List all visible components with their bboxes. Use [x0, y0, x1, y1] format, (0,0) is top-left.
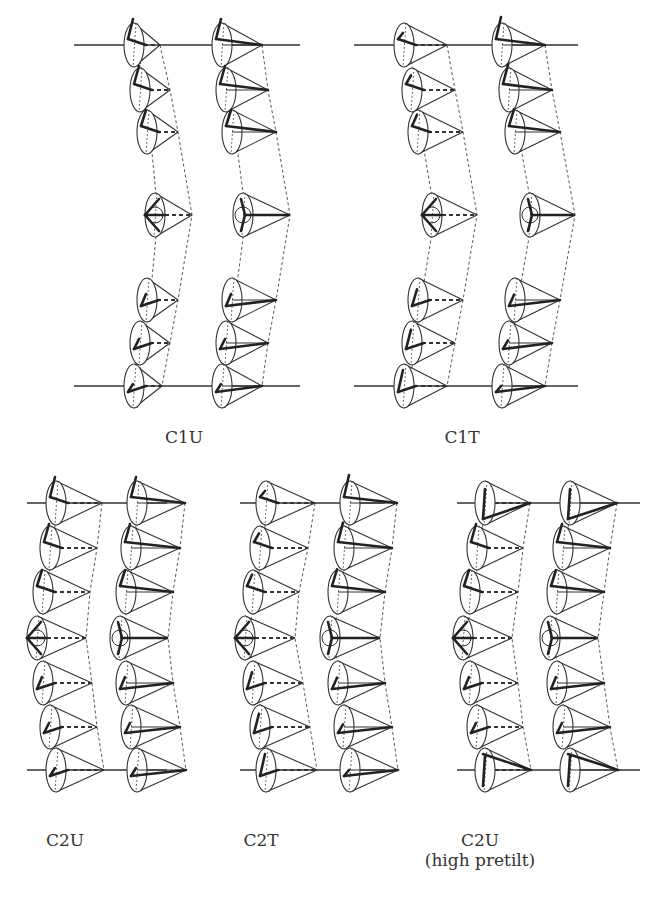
- smectic-layer-line: [598, 503, 618, 770]
- director-cone: [492, 364, 545, 408]
- director-cone: [124, 19, 160, 67]
- director-cone: [212, 19, 262, 67]
- panel-label-text: C2T: [243, 830, 278, 850]
- director-cone: [422, 193, 477, 237]
- cone-base-ellipse: [402, 321, 422, 365]
- director-cone: [547, 570, 604, 614]
- cone-base-ellipse: [250, 705, 270, 749]
- director-cone: [110, 616, 168, 660]
- panel-c2t: [235, 475, 398, 792]
- director-cone: [33, 661, 92, 705]
- director-cone: [46, 477, 102, 525]
- director-cone: [334, 523, 392, 570]
- cone-base-ellipse: [394, 23, 414, 67]
- director-cone: [467, 705, 523, 749]
- cone-base-ellipse: [130, 68, 150, 112]
- cone-base-ellipse: [467, 705, 487, 749]
- director-cone: [121, 705, 180, 749]
- director-cone: [256, 748, 317, 792]
- cone-base-ellipse: [243, 661, 263, 705]
- director-cone: [320, 616, 380, 660]
- director-cone: [553, 524, 610, 570]
- panel-label-c1t: C1T: [444, 427, 479, 447]
- director-cone: [116, 661, 173, 705]
- director-cone: [340, 475, 397, 525]
- cone-column: [124, 19, 192, 408]
- director-cone: [127, 748, 186, 792]
- director-cone: [408, 110, 463, 154]
- panel-label-text: C1U: [165, 427, 203, 447]
- director-cone: [216, 66, 268, 112]
- cone-base-ellipse: [243, 570, 263, 614]
- panel-c2u-hp: [453, 481, 640, 792]
- panel-c1t: [354, 17, 578, 408]
- director-cone: [222, 278, 276, 322]
- panel-label-text: C2U: [425, 830, 536, 850]
- director-cone: [250, 705, 310, 749]
- smectic-layer-line: [512, 503, 531, 770]
- cone-base-ellipse: [124, 23, 144, 67]
- panel-sublabel-text: (high pretilt): [425, 850, 536, 870]
- director-cone: [243, 570, 299, 614]
- director-cone: [130, 66, 170, 112]
- director-cone: [340, 748, 398, 792]
- director-cone: [235, 616, 295, 660]
- cone-base-ellipse: [467, 526, 487, 570]
- director-cone: [243, 661, 303, 705]
- panel-label-text: C1T: [444, 427, 479, 447]
- cone-base-ellipse: [40, 705, 60, 749]
- director-cone: [408, 278, 463, 322]
- panel-c1u: [74, 19, 300, 408]
- director-cone: [145, 193, 192, 237]
- director-cone: [505, 278, 560, 322]
- director-cone: [46, 748, 104, 792]
- director-cone: [33, 570, 90, 614]
- director-cone: [256, 481, 315, 525]
- director-cone: [222, 110, 276, 154]
- cone-column: [27, 477, 104, 792]
- director-cone: [233, 193, 290, 237]
- cone-base-ellipse: [33, 661, 53, 705]
- cone-column: [540, 481, 618, 792]
- cone-base-ellipse: [460, 570, 480, 614]
- director-cone: [328, 569, 385, 614]
- director-cone: [40, 705, 97, 749]
- cone-base-ellipse: [256, 481, 276, 525]
- director-cone: [467, 524, 523, 570]
- cone-base-ellipse: [46, 481, 66, 525]
- smectic-layer-line: [86, 503, 104, 770]
- director-cone: [402, 321, 455, 365]
- director-cone: [505, 109, 560, 154]
- director-cone: [116, 570, 173, 614]
- director-cone: [499, 65, 552, 112]
- director-cone: [492, 17, 545, 67]
- director-cone: [402, 68, 455, 112]
- panel-label-c1u: C1U: [165, 427, 203, 447]
- cone-column: [320, 475, 398, 792]
- director-cone: [40, 524, 97, 570]
- director-cone: [127, 477, 185, 525]
- panel-label-c2u: C2U: [46, 830, 84, 850]
- director-cone: [560, 748, 618, 792]
- director-cone: [499, 321, 552, 365]
- director-cone: [130, 321, 170, 365]
- cone-base-ellipse: [460, 661, 480, 705]
- cone-base-ellipse: [137, 278, 157, 322]
- director-cone: [121, 524, 180, 570]
- cone-base-ellipse: [33, 570, 53, 614]
- director-cone: [250, 526, 308, 570]
- cone-column: [492, 17, 575, 408]
- cone-base-ellipse: [137, 110, 157, 154]
- director-cone: [328, 661, 385, 705]
- director-cone: [137, 278, 178, 322]
- director-cone: [560, 481, 617, 525]
- cone-base-ellipse: [40, 526, 60, 570]
- director-cone: [216, 321, 268, 365]
- director-cone: [212, 364, 262, 408]
- director-cone: [453, 616, 512, 660]
- cone-column: [212, 19, 290, 408]
- director-cone: [137, 110, 178, 154]
- cone-column: [235, 481, 317, 792]
- panel-label-text: C2U: [46, 830, 84, 850]
- smectic-layer-line: [380, 503, 398, 770]
